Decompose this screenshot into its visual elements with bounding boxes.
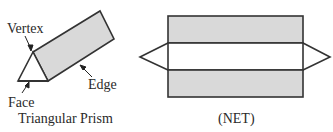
net-middle-face — [168, 43, 303, 70]
net-left-triangle — [140, 43, 168, 70]
prism-title: Triangular Prism — [18, 112, 113, 126]
net-top-face — [168, 16, 303, 43]
prism-net — [140, 16, 330, 97]
face-label: Face — [8, 96, 34, 110]
net-right-triangle — [303, 43, 330, 70]
edge-label: Edge — [88, 78, 117, 92]
vertex-label: Vertex — [7, 22, 44, 36]
prism-side-face — [33, 11, 114, 81]
net-bottom-face — [168, 70, 303, 97]
net-caption: (NET) — [218, 112, 255, 126]
